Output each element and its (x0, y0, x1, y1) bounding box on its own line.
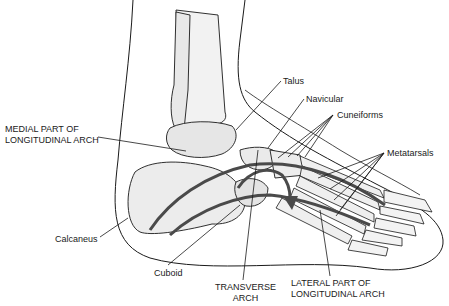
label-line: Metatarsals (387, 148, 434, 159)
leader-line-cuneiforms (297, 115, 333, 156)
label-cuneiforms: Cuneiforms (337, 110, 383, 121)
label-lateral-arch: LATERAL PART OFLONGITUDINAL ARCH (291, 278, 385, 299)
label-line: ARCH (215, 293, 276, 304)
label-line: Navicular (306, 94, 344, 105)
label-calcaneus: Calcaneus (55, 234, 98, 245)
foot-illustration (0, 0, 449, 306)
label-line: LONGITUDINAL ARCH (5, 135, 99, 146)
cuboid-bone (235, 179, 268, 207)
leader-line-calcaneus (100, 218, 128, 237)
label-line: LATERAL PART OF (291, 278, 385, 289)
label-line: LONGITUDINAL ARCH (291, 289, 385, 300)
talus-bone (166, 122, 236, 158)
label-line: Cuboid (154, 268, 183, 279)
label-line: Talus (283, 76, 304, 87)
label-talus: Talus (283, 76, 304, 87)
label-line: MEDIAL PART OF (5, 124, 99, 135)
leader-line-lateral-arch (320, 210, 330, 276)
leader-line-transverse-arch (243, 150, 258, 280)
label-line: TRANSVERSE (215, 282, 276, 293)
leader-line-navicular (268, 99, 304, 148)
leader-line-cuneiforms (305, 115, 333, 157)
leader-line-cuneiforms (288, 115, 333, 157)
label-transverse-arch: TRANSVERSEARCH (215, 282, 276, 303)
label-line: Cuneiforms (337, 110, 383, 121)
foot-arches-diagram: TalusNavicularCuneiformsMetatarsalsMEDIA… (0, 0, 449, 306)
label-cuboid: Cuboid (154, 268, 183, 279)
leader-line-talus (236, 81, 281, 130)
leader-line-cuneiforms (278, 115, 333, 158)
label-navicular: Navicular (306, 94, 344, 105)
label-medial-arch: MEDIAL PART OFLONGITUDINAL ARCH (5, 124, 99, 145)
label-metatarsals: Metatarsals (387, 148, 434, 159)
label-line: Calcaneus (55, 234, 98, 245)
